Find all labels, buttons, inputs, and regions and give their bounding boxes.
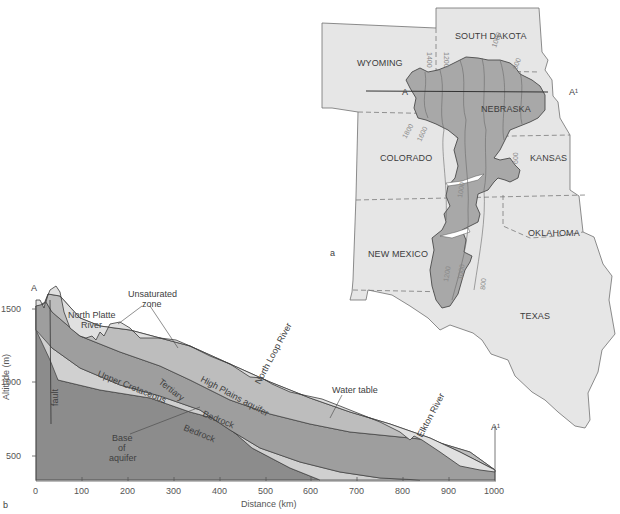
section-start-label: A bbox=[402, 87, 408, 97]
state-label-texas: TEXAS bbox=[520, 311, 550, 321]
x-tick-label: 300 bbox=[166, 486, 181, 496]
contour-label: 1400 bbox=[426, 52, 433, 68]
x-tick-label: 100 bbox=[74, 486, 89, 496]
y-axis-label: Altitude (m) bbox=[1, 354, 11, 400]
north-platte-river-label: North Platte bbox=[68, 310, 116, 320]
x-tick-label: 800 bbox=[395, 486, 410, 496]
contour-label: 600 bbox=[512, 152, 519, 164]
unsaturated-zone-label: Unsaturated bbox=[128, 289, 177, 299]
state-label-wyoming: WYOMING bbox=[357, 58, 403, 68]
section-end-label: A¹ bbox=[569, 87, 578, 97]
water-table-label: Water table bbox=[332, 385, 378, 395]
x-axis-label: Distance (km) bbox=[241, 499, 297, 509]
elkton-river-label: Elkton River bbox=[415, 391, 447, 439]
state-label-nebraska: NEBRASKA bbox=[481, 104, 531, 114]
x-tick-label: 200 bbox=[120, 486, 135, 496]
state-label-colorado: COLORADO bbox=[380, 153, 432, 163]
y-tick-label: 1500 bbox=[1, 304, 21, 314]
state-label-south-dakota: SOUTH DAKOTA bbox=[455, 31, 527, 41]
unsaturated-zone-label-2: zone bbox=[142, 299, 162, 309]
x-tick-label: 400 bbox=[212, 486, 227, 496]
north-platte-river-label-2: River bbox=[81, 320, 102, 330]
x-tick-label: 500 bbox=[258, 486, 273, 496]
section-end-a1: A¹ bbox=[491, 422, 500, 432]
panel-a-label: a bbox=[330, 248, 335, 258]
x-tick-label: 0 bbox=[33, 486, 38, 496]
panel-b-label: b bbox=[3, 500, 8, 510]
figure-canvas: SOUTH DAKOTA WYOMING NEBRASKA COLORADO K… bbox=[0, 0, 620, 514]
x-tick-label: 600 bbox=[303, 486, 318, 496]
state-label-oklahoma: OKLAHOMA bbox=[528, 228, 580, 238]
contour-label: 1200 bbox=[443, 52, 450, 68]
base-of-aquifer-label: Base bbox=[112, 433, 133, 443]
map-panel bbox=[322, 8, 615, 428]
state-label-kansas: KANSAS bbox=[530, 153, 567, 163]
base-of-aquifer-label-2: of bbox=[118, 443, 126, 453]
north-loop-river-label: North Loop River bbox=[253, 321, 294, 386]
x-tick-label: 1000 bbox=[484, 486, 504, 496]
state-label-new-mexico: NEW MEXICO bbox=[368, 249, 428, 259]
contour-label: 800 bbox=[479, 278, 487, 290]
x-tick-label: 900 bbox=[441, 486, 456, 496]
base-of-aquifer-label-3: aquifer bbox=[109, 453, 137, 463]
section-start-a: A bbox=[31, 283, 37, 293]
fault-label: fault bbox=[50, 388, 60, 406]
y-tick-label: 500 bbox=[6, 451, 21, 461]
x-tick-label: 700 bbox=[349, 486, 364, 496]
